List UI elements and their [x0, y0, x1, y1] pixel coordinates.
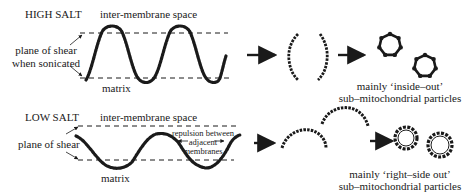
condition-label-high-salt: HIGH SALT: [25, 8, 82, 20]
vesicle-inside-out-1: [377, 32, 403, 57]
intermembrane-space-label-low: inter-membrane space: [100, 111, 197, 123]
membrane-fragment-right: [318, 34, 327, 80]
membrane-arc-2: [322, 108, 368, 126]
result-label-right-side-out-line1: mainly ‘right–side out’: [330, 168, 470, 180]
shear-pointer-top-low: [66, 127, 78, 134]
result-label-right-side-out-line2: sub–mitochondrial particles: [330, 180, 470, 192]
shear-plane-label-low: plane of shear: [18, 138, 80, 150]
result-label-inside-out-line1: mainly ‘inside–out’: [330, 80, 470, 92]
high-salt-panel: [70, 26, 438, 83]
vesicle-inside-out-2: [412, 53, 438, 78]
shear-pointer-bottom-low: [66, 152, 78, 159]
matrix-label-high: matrix: [102, 82, 131, 94]
intermembrane-space-label-high: inter-membrane space: [100, 8, 197, 20]
cristae-membrane-high: [86, 26, 226, 83]
vesicle-right-side-out-2: [428, 133, 452, 157]
condition-label-low-salt: LOW SALT: [25, 111, 79, 123]
membrane-fragment-left: [289, 34, 298, 80]
shear-plane-label-high-line1: plane of shear: [10, 44, 82, 56]
matrix-label-low: matrix: [101, 172, 130, 184]
result-label-inside-out-line2: sub–mitochondrial particles: [330, 92, 470, 104]
membrane-arc-1: [282, 130, 326, 148]
shear-plane-label-high-line2: when sonicated: [10, 57, 82, 69]
vesicle-right-side-out-1: [395, 127, 417, 149]
repulsion-label-line3: membranes: [170, 146, 236, 156]
